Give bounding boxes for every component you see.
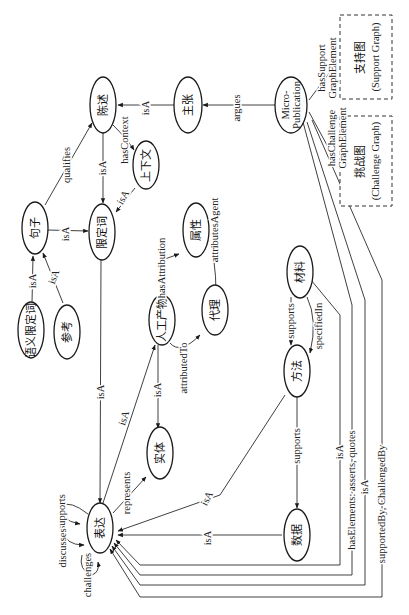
node-material-label: 材料: [293, 261, 307, 283]
label-attributesagent: attributesAgent: [209, 198, 220, 263]
challenge-graph-label-en: (Challenge Graph): [370, 121, 382, 200]
node-context-label: 上下文: [139, 149, 153, 182]
label-hassupport-2: GraphElement: [327, 37, 338, 98]
label-self-supports: supports: [56, 494, 67, 530]
support-graph-label-cn: 支持图: [353, 41, 367, 74]
label-hassupport-1: hasSupport: [316, 44, 327, 91]
edge-method-isa: [118, 395, 285, 531]
node-attribute-label: 属性: [189, 219, 203, 241]
node-method: 方法: [284, 345, 310, 397]
node-data: 数据: [284, 509, 310, 561]
node-artifact-label: 人工产物: [155, 298, 169, 342]
node-entity-label: 实体: [153, 442, 167, 464]
node-context: 上下文: [133, 141, 159, 189]
label-material-isa: isA: [334, 444, 345, 459]
label-haschallenge-2: GraphElement: [337, 107, 348, 168]
label-self-discusses: discusses: [57, 528, 68, 567]
node-representation-label: 表达: [93, 517, 107, 539]
edge-micropub-isa: [112, 122, 365, 585]
label-method-isa: isA: [199, 489, 216, 507]
node-sentence: 句子: [22, 202, 48, 254]
node-semq-label: 语义限定词: [24, 303, 38, 358]
node-claim: 主张: [174, 77, 202, 133]
node-micropub-label-2: Publication: [291, 80, 302, 129]
node-qualifier: 限定词: [89, 204, 115, 260]
node-representation: 表达: [87, 503, 113, 553]
node-semantic-qualifier: 语义限定词: [18, 302, 44, 358]
label-semq-isa: isA: [27, 273, 38, 288]
label-specifiedin: specifiedIn: [313, 302, 324, 349]
node-attribute: 属性: [183, 203, 209, 257]
node-method-label: 方法: [290, 360, 304, 382]
node-entity: 实体: [147, 427, 173, 479]
label-haselements: hasElements: asserts, quotes: [346, 430, 357, 549]
node-micropub-label-1: Micro-: [280, 90, 291, 120]
node-material: 材料: [287, 246, 313, 298]
node-statement-label: 陈述: [96, 94, 110, 116]
label-haschallenge-1: hasChallenge: [326, 109, 337, 166]
label-sentence-isa: isA: [60, 226, 71, 241]
edge-qualifier-isa: [100, 260, 101, 503]
node-reference: 参考: [54, 305, 80, 359]
label-argues: argues: [231, 94, 242, 121]
support-graph-label-en: (Support Graph): [370, 22, 382, 92]
label-hasattribution: hasAttribution: [156, 237, 167, 298]
label-ref-isa: isA: [46, 268, 61, 286]
label-context-isa: isA: [115, 188, 132, 206]
support-graph-box: 支持图 (Support Graph): [340, 15, 392, 99]
challenge-graph-label-cn: 挑战图: [353, 145, 367, 178]
label-supportedby: supportedBy, ChallengedBy: [376, 444, 387, 563]
label-claim-isa: isA: [140, 100, 151, 115]
label-supports-method: supports: [291, 428, 302, 464]
node-agent-label: 代理: [209, 299, 222, 321]
node-reference-label: 参考: [60, 321, 74, 343]
ontology-diagram: 支持图 (Support Graph) 挑战图 (Challenge Graph…: [0, 0, 409, 615]
node-qualifier-label: 限定词: [95, 216, 109, 249]
node-sentence-label: 句子: [29, 217, 42, 239]
node-micropublication: Micro- Publication: [275, 77, 307, 133]
label-supports-material: supports: [285, 303, 296, 339]
label-represents: represents: [121, 472, 132, 515]
node-statement: 陈述: [90, 77, 116, 133]
node-claim-label: 主张: [182, 94, 195, 116]
node-data-label: 数据: [290, 524, 304, 546]
label-statement-isa: isA: [97, 160, 108, 175]
node-agent: 代理: [202, 285, 228, 335]
label-attributedto: attributedTo: [178, 342, 189, 393]
node-artifact: 人工产物: [149, 295, 175, 345]
label-qualifies: qualifies: [61, 147, 72, 183]
label-artifact-isa-entity: isA: [152, 382, 163, 397]
label-hascontext: hasContext: [119, 116, 130, 163]
label-data-isa: isA: [202, 530, 213, 545]
label-micropub-isa: isA: [359, 479, 370, 494]
label-qualifier-isa: isA: [95, 384, 106, 399]
label-self-challenges: challenges: [82, 553, 93, 597]
